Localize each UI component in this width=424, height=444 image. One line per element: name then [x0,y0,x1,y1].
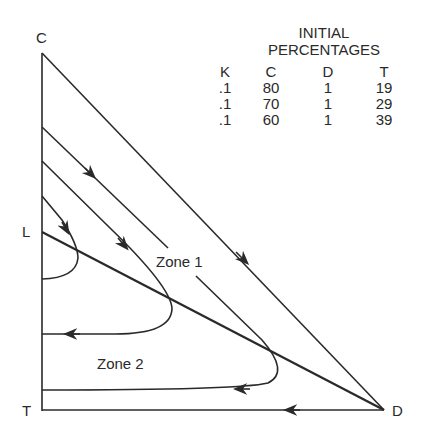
header-d: D [302,64,354,80]
legend-title-line2: PERCENTAGES [228,41,420,58]
cell: 19 [354,80,414,96]
vertex-label-c: C [36,30,47,45]
vertex-label-l: L [22,224,30,239]
cell: 39 [354,112,414,128]
cell: 1 [302,112,354,128]
header-k: K [210,64,240,80]
zone-2-label: Zone 2 [97,356,144,371]
cell: 1 [302,96,354,112]
vertex-label-d: D [392,403,403,418]
trajectory-60 [42,196,78,279]
zone-1-label: Zone 1 [156,254,203,269]
cell: 80 [240,80,302,96]
trajectory-70 [42,161,172,334]
separatrix-l-d [42,232,384,410]
initial-percentages-legend: INITIAL PERCENTAGES K C D T .1 80 1 19 .… [210,24,420,58]
legend-row: .1 60 1 39 [210,112,414,128]
arrow-trajectory-80-down [85,168,91,174]
legend-table: K C D T .1 80 1 19 .1 70 1 29 .1 60 1 39 [210,64,414,128]
cell: .1 [210,112,240,128]
legend-row: .1 70 1 29 [210,96,414,112]
cell: 1 [302,80,354,96]
cell: 60 [240,112,302,128]
cell: 29 [354,96,414,112]
trajectory-80 [42,127,168,248]
cell: 70 [240,96,302,112]
legend-title-line1: INITIAL [228,24,420,41]
header-t: T [354,64,414,80]
cell: .1 [210,80,240,96]
header-c: C [240,64,302,80]
legend-header-row: K C D T [210,64,414,80]
legend-row: .1 80 1 19 [210,80,414,96]
cell: .1 [210,96,240,112]
vertex-label-t: T [22,403,31,418]
